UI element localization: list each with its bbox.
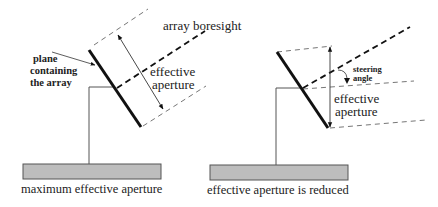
right-array-plane [277,52,328,128]
right-aperture-label-2: aperture [335,104,378,119]
left-panel: array boresight effective aperture plane… [21,9,242,196]
left-array-plane [89,50,141,127]
steering-angle-arc [338,70,347,78]
steering-label-2: angle [353,73,373,83]
right-panel: steering angle effective aperture effect… [207,27,426,197]
boresight-label: array boresight [163,18,242,33]
plane-label-1: plane [33,53,58,64]
plane-label-2: containing [30,65,78,76]
right-mount-post [276,88,303,165]
steering-angle-arrowhead [344,78,350,84]
right-caption: effective aperture is reduced [207,183,349,197]
plane-label-3: the array [30,77,72,88]
left-mount-post [89,87,113,164]
plane-label-leader [52,52,95,65]
right-aperture-edge-top [277,46,332,52]
right-aperture-edge-bottom [330,120,426,128]
left-base-platform [23,164,161,179]
left-aperture-label-2: aperture [152,77,195,92]
left-caption: maximum effective aperture [21,182,163,196]
aperture-diagram: array boresight effective aperture plane… [0,0,438,207]
right-base-platform [210,165,348,180]
